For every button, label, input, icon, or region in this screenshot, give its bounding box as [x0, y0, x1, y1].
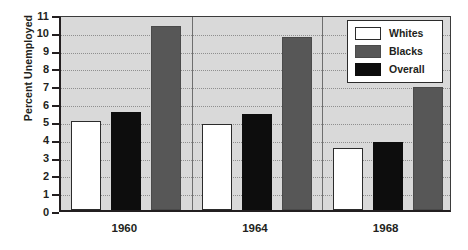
gridline — [61, 88, 450, 89]
bar-1964-whites — [202, 124, 232, 210]
legend-label: Overall — [389, 64, 425, 75]
y-axis-tick-mark — [52, 105, 59, 107]
x-axis-tick-label: 1968 — [320, 222, 451, 234]
legend-item-overall: Overall — [355, 62, 436, 77]
y-axis-tick-label: 0 — [23, 207, 49, 218]
y-axis-tick-label: 4 — [23, 135, 49, 146]
x-axis-tick-label: 1960 — [59, 222, 190, 234]
bar-1968-overall — [373, 142, 403, 210]
y-axis-tick-mark — [52, 34, 59, 36]
y-axis-tick-mark — [52, 123, 59, 125]
unemployment-bar-chart: Percent Unemployed 01234567891011 196019… — [0, 0, 468, 250]
y-axis-tick-label: 6 — [23, 100, 49, 111]
y-axis-tick-label: 10 — [23, 28, 49, 39]
x-axis-tick-label: 1964 — [190, 222, 321, 234]
y-axis-tick-mark — [52, 176, 59, 178]
y-axis-tick-mark — [52, 87, 59, 89]
y-axis-tick-label: 3 — [23, 153, 49, 164]
y-axis-tick-label: 2 — [23, 171, 49, 182]
y-axis-tick-mark — [52, 69, 59, 71]
legend-label: Whites — [389, 28, 423, 39]
y-axis-tick-mark — [52, 212, 59, 214]
legend-swatch-overall — [355, 63, 381, 76]
y-axis-tick-label: 8 — [23, 64, 49, 75]
bar-1964-blacks — [282, 37, 312, 210]
chart-legend: WhitesBlacksOverall — [347, 20, 443, 83]
bar-1960-blacks — [151, 26, 181, 210]
group-separator — [192, 17, 193, 210]
y-axis-tick-label: 5 — [23, 117, 49, 128]
bar-1968-blacks — [413, 87, 443, 210]
group-separator — [322, 17, 323, 210]
bar-1960-overall — [111, 112, 141, 210]
gridline — [61, 106, 450, 107]
y-axis-tick-label: 9 — [23, 46, 49, 57]
y-axis-tick-label: 11 — [23, 11, 49, 22]
legend-label: Blacks — [389, 46, 423, 57]
bar-1960-whites — [71, 121, 101, 210]
y-axis-tick-mark — [52, 52, 59, 54]
legend-item-whites: Whites — [355, 26, 436, 41]
y-axis-tick-mark — [52, 141, 59, 143]
y-axis-tick-mark — [52, 194, 59, 196]
bar-1964-overall — [242, 114, 272, 210]
legend-swatch-whites — [355, 27, 381, 40]
legend-swatch-blacks — [355, 45, 381, 58]
y-axis-tick-label: 1 — [23, 189, 49, 200]
y-axis-tick-mark — [52, 16, 59, 18]
y-axis-tick-label: 7 — [23, 82, 49, 93]
y-axis-tick-mark — [52, 159, 59, 161]
bar-1968-whites — [333, 148, 363, 210]
legend-item-blacks: Blacks — [355, 44, 436, 59]
